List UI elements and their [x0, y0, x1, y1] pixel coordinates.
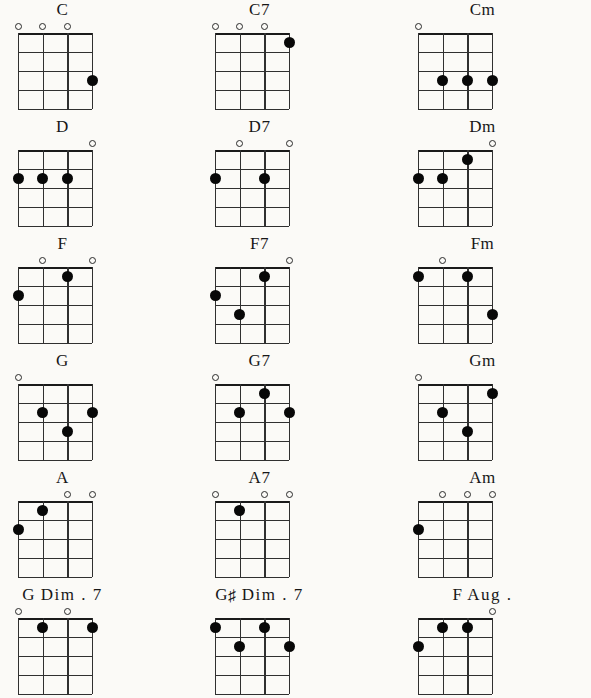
- chord-diagram-g7[interactable]: G7: [197, 351, 394, 468]
- finger-dot: [37, 407, 48, 418]
- finger-dot: [13, 173, 24, 184]
- nut-line: [215, 150, 289, 152]
- chord-label: Am: [384, 468, 581, 487]
- string-line: [289, 267, 290, 343]
- open-string-circle-icon: [212, 491, 219, 498]
- fretboard-lines: [215, 501, 289, 577]
- chord-diagram-am[interactable]: Am: [394, 468, 591, 585]
- chord-label-part: Cm: [470, 0, 496, 19]
- open-string-circle-icon: [212, 374, 219, 381]
- string-line: [43, 267, 44, 343]
- chord-label-part: Aug .: [462, 585, 512, 604]
- fret-line: [18, 539, 92, 540]
- chord-label: F: [0, 234, 161, 253]
- fret-line: [215, 577, 289, 578]
- finger-dot: [413, 641, 424, 652]
- string-line: [92, 267, 93, 343]
- chord-diagram-cm[interactable]: Cm: [394, 0, 591, 117]
- fret-line: [215, 71, 289, 72]
- string-line: [264, 33, 265, 109]
- string-line: [418, 33, 419, 109]
- string-line: [264, 150, 265, 226]
- fret-line: [215, 460, 289, 461]
- string-line: [215, 33, 216, 109]
- nut-line: [418, 501, 492, 503]
- finger-dot: [437, 407, 448, 418]
- chord-diagram-dm[interactable]: Dm: [394, 117, 591, 234]
- fret-line: [418, 441, 492, 442]
- fret-line: [418, 460, 492, 461]
- fret-line: [215, 675, 289, 676]
- chord-label-part: Gm: [469, 351, 496, 370]
- finger-dot: [437, 75, 448, 86]
- open-string-circle-icon: [489, 140, 496, 147]
- string-line: [67, 33, 68, 109]
- fret-line: [418, 422, 492, 423]
- nut-line: [215, 501, 289, 503]
- chord-diagram-fm[interactable]: Fm: [394, 234, 591, 351]
- string-line: [418, 150, 419, 226]
- open-string-circle-icon: [236, 140, 243, 147]
- open-string-circle-icon: [261, 23, 268, 30]
- chord-chart-sheet: CC7CmDD7DmFF7FmGG7GmAA7AmG Dim . 7G♯ Dim…: [0, 0, 591, 698]
- fretboard-diagram: [18, 384, 92, 460]
- fretboard-diagram: [18, 150, 92, 226]
- string-line: [418, 384, 419, 460]
- open-string-circle-icon: [286, 257, 293, 264]
- open-string-circle-icon: [39, 257, 46, 264]
- fretboard-lines: [18, 267, 92, 343]
- fret-line: [215, 109, 289, 110]
- string-line: [443, 267, 444, 343]
- fret-line: [18, 460, 92, 461]
- open-string-markers: [418, 372, 492, 383]
- fret-line: [18, 558, 92, 559]
- chord-diagram-gm[interactable]: Gm: [394, 351, 591, 468]
- fretboard-lines: [418, 501, 492, 577]
- fret-line: [215, 694, 289, 695]
- fret-line: [215, 637, 289, 638]
- string-line: [240, 384, 241, 460]
- fret-line: [18, 90, 92, 91]
- fret-line: [18, 577, 92, 578]
- open-string-markers: [418, 255, 492, 266]
- string-line: [215, 267, 216, 343]
- string-line: [492, 150, 493, 226]
- chord-diagram-d7[interactable]: D7: [197, 117, 394, 234]
- chord-diagram-f7[interactable]: F7: [197, 234, 394, 351]
- chord-diagram-a7[interactable]: A7: [197, 468, 394, 585]
- fret-line: [418, 324, 492, 325]
- chord-label: D7: [161, 117, 358, 136]
- nut-line: [18, 501, 92, 503]
- fret-line: [215, 441, 289, 442]
- chord-label: C: [0, 0, 161, 19]
- string-line: [467, 33, 468, 109]
- chord-diagram-f-aug-[interactable]: F Aug .: [394, 585, 591, 698]
- fret-line: [18, 305, 92, 306]
- finger-dot: [259, 388, 270, 399]
- string-line: [492, 618, 493, 694]
- fret-line: [215, 286, 289, 287]
- fretboard-lines: [215, 618, 289, 694]
- nut-line: [18, 267, 92, 269]
- open-string-markers: [418, 138, 492, 149]
- fret-line: [215, 520, 289, 521]
- chord-diagram-g#-dim-7[interactable]: G♯ Dim . 7: [197, 585, 394, 698]
- chord-label-part: C: [57, 0, 69, 19]
- finger-dot: [210, 622, 221, 633]
- finger-dot: [462, 271, 473, 282]
- fret-line: [418, 539, 492, 540]
- chord-row: G Dim . 7G♯ Dim . 7F Aug .: [0, 585, 591, 698]
- fret-line: [18, 286, 92, 287]
- fret-line: [18, 441, 92, 442]
- fret-line: [18, 520, 92, 521]
- fretboard-lines: [18, 33, 92, 109]
- string-line: [92, 384, 93, 460]
- fret-line: [418, 403, 492, 404]
- finger-dot: [13, 290, 24, 301]
- chord-diagram-c7[interactable]: C7: [197, 0, 394, 117]
- finger-dot: [413, 271, 424, 282]
- finger-dot: [259, 271, 270, 282]
- fret-line: [418, 52, 492, 53]
- fretboard-diagram: [215, 384, 289, 460]
- fretboard-lines: [418, 150, 492, 226]
